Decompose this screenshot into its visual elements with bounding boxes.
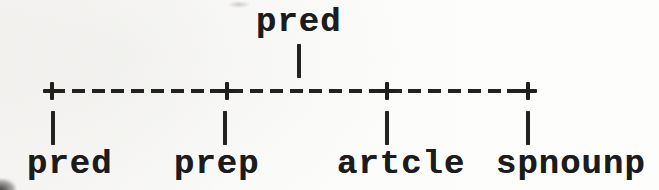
branch-junction-plus — [378, 82, 396, 100]
branch-junction-plus — [43, 82, 61, 100]
child-connector-line — [526, 111, 530, 145]
tree-leaf-label: spnounp — [496, 146, 646, 182]
tree-leaf-label: pred — [27, 146, 113, 182]
child-connector-line — [223, 111, 227, 145]
root-connector-line — [297, 44, 301, 78]
scan-smudge-corner — [0, 179, 16, 190]
branch-junction-plus — [519, 82, 537, 100]
branch-junction-plus — [218, 82, 236, 100]
tree-root-label: pred — [256, 4, 342, 40]
tree-leaf-label: artcle — [337, 146, 465, 182]
child-connector-line — [51, 111, 55, 145]
tree-leaf-label: prep — [174, 146, 260, 182]
scan-smudge-top — [228, 1, 250, 8]
child-connector-line — [385, 111, 389, 145]
branch-line — [52, 89, 529, 93]
parse-tree-diagram: pred pred prep artcle spnounp — [0, 0, 659, 190]
